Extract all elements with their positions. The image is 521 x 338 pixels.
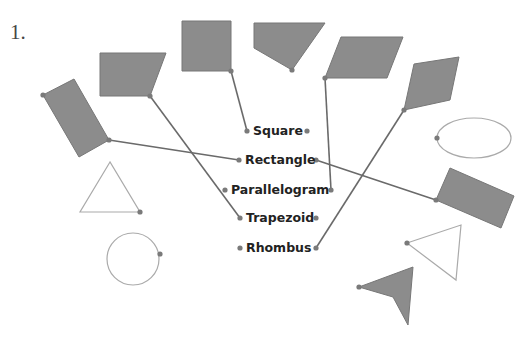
shape-rhombus[interactable]	[404, 57, 459, 110]
connector-trapezoid	[150, 96, 240, 218]
shape-circle[interactable]	[107, 233, 159, 285]
shape-triangle-right[interactable]	[407, 225, 461, 280]
connection-dot[interactable]	[137, 209, 142, 214]
connector-square	[231, 71, 247, 131]
label-trapezoid[interactable]: Trapezoid	[246, 211, 314, 225]
shape-parallelogram[interactable]	[325, 37, 403, 78]
label-square[interactable]: Square	[253, 124, 303, 138]
connection-dot[interactable]	[322, 75, 327, 80]
connection-dot[interactable]	[434, 135, 439, 140]
shape-pentagon[interactable]	[254, 23, 325, 70]
connection-dot[interactable]	[404, 240, 409, 245]
shape-square[interactable]	[182, 21, 231, 71]
connection-dot[interactable]	[356, 284, 361, 289]
shape-trapezoid[interactable]	[100, 53, 166, 96]
connector-rectangle-right	[316, 160, 436, 200]
matching-diagram	[0, 0, 521, 338]
connector-parallelogram	[325, 78, 331, 190]
connection-dot[interactable]	[237, 245, 242, 250]
connection-dot[interactable]	[147, 93, 152, 98]
shape-ellipse[interactable]	[437, 118, 511, 158]
shapes-layer	[43, 21, 514, 325]
label-parallelogram[interactable]: Parallelogram	[231, 183, 329, 197]
connection-dot[interactable]	[40, 92, 45, 97]
connection-dot[interactable]	[304, 128, 309, 133]
connection-dot[interactable]	[157, 251, 162, 256]
connection-dot[interactable]	[244, 128, 249, 133]
connection-dot[interactable]	[289, 67, 294, 72]
connection-dot[interactable]	[313, 245, 318, 250]
connection-dot[interactable]	[236, 157, 241, 162]
connector-rhombus	[316, 110, 404, 248]
connector-rectangle-left	[109, 140, 239, 160]
connection-dot[interactable]	[222, 187, 227, 192]
label-rectangle[interactable]: Rectangle	[245, 153, 316, 167]
connection-dot[interactable]	[433, 197, 438, 202]
shape-rectangle-right[interactable]	[436, 168, 514, 228]
connection-dot[interactable]	[106, 137, 111, 142]
connection-dot[interactable]	[228, 68, 233, 73]
shape-triangle-left[interactable]	[80, 162, 140, 212]
label-rhombus[interactable]: Rhombus	[246, 241, 311, 255]
shape-rectangle-left[interactable]	[43, 79, 109, 157]
connection-dot[interactable]	[401, 107, 406, 112]
connection-dot[interactable]	[237, 215, 242, 220]
shape-arrowhead[interactable]	[359, 267, 413, 325]
